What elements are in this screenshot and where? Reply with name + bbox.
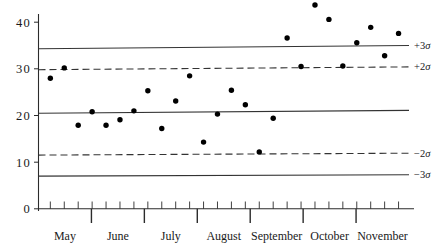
x-axis-month-label-august: August (206, 229, 241, 243)
data-point (229, 88, 234, 93)
sigma-label-plus-3: +3σ (414, 40, 431, 51)
control-chart-figure: 40 30 20 10 0 +3σ +2σ −2σ (0, 0, 441, 247)
y-axis-group: 40 30 20 10 0 (16, 14, 38, 216)
control-line-plus-3-sigma (39, 46, 410, 49)
sigma-label-group: +3σ +2σ −2σ −3σ (414, 40, 431, 180)
data-point (145, 88, 150, 93)
data-point (201, 139, 206, 144)
sigma-label-plus-3-prefix: +3 (414, 40, 425, 51)
data-point-group (48, 2, 402, 154)
x-axis-month-label-may: May (54, 229, 76, 243)
x-axis-month-label-october: October (310, 229, 349, 243)
sigma-label-plus-2-prefix: +2 (414, 61, 425, 72)
data-point (368, 25, 373, 30)
x-axis-month-label-july: July (161, 229, 181, 243)
sigma-glyph-plus-2: σ (425, 61, 431, 72)
data-point (159, 126, 164, 131)
data-point (131, 108, 136, 113)
y-axis-tick-labels: 40 30 20 10 0 (16, 16, 31, 217)
sigma-label-minus-2-prefix: −2 (414, 148, 425, 159)
data-point (271, 116, 276, 121)
data-point (215, 111, 220, 116)
data-point (103, 123, 108, 128)
x-axis-minor-ticks (50, 202, 398, 209)
sigma-label-minus-2: −2σ (414, 148, 431, 159)
data-point (173, 98, 178, 103)
sigma-label-minus-3: −3σ (414, 169, 431, 180)
control-chart-svg: 40 30 20 10 0 +3σ +2σ −2σ (0, 0, 441, 247)
sigma-glyph-plus-3: σ (425, 40, 431, 51)
sigma-glyph-minus-3: σ (425, 169, 431, 180)
data-point (354, 40, 359, 45)
control-line-plus-2-sigma (39, 67, 410, 70)
data-point (382, 53, 387, 58)
sigma-label-minus-3-prefix: −3 (414, 169, 425, 180)
y-tick-label-0: 0 (24, 202, 31, 216)
data-point (243, 102, 248, 107)
x-axis-month-ticks (91, 209, 356, 223)
data-point (298, 64, 303, 69)
data-point (396, 31, 401, 36)
data-point (284, 35, 289, 40)
data-point (117, 117, 122, 122)
data-point (312, 2, 317, 7)
data-point (89, 109, 94, 114)
sigma-glyph-minus-2: σ (425, 148, 431, 159)
x-axis-month-label-november: November (357, 229, 408, 243)
data-point (340, 63, 345, 68)
data-point (62, 65, 67, 70)
data-point (76, 123, 81, 128)
control-line-minus-2-sigma (39, 153, 410, 155)
data-point (257, 149, 262, 154)
y-tick-label-20: 20 (16, 109, 31, 123)
data-point (326, 17, 331, 22)
x-axis-group (39, 202, 415, 224)
sigma-label-plus-2: +2σ (414, 61, 431, 72)
x-axis-month-label-june: June (107, 229, 129, 243)
control-line-minus-3-sigma (39, 175, 410, 176)
y-tick-label-10: 10 (16, 156, 31, 170)
data-point (48, 75, 53, 80)
data-point (187, 73, 192, 78)
y-axis-ticks (34, 22, 39, 209)
y-tick-label-40: 40 (16, 16, 31, 30)
y-tick-label-30: 30 (16, 62, 31, 76)
x-axis-month-label-september: September (251, 229, 302, 243)
x-axis-month-labels: MayJuneJulyAugustSeptemberOctoberNovembe… (54, 229, 408, 243)
